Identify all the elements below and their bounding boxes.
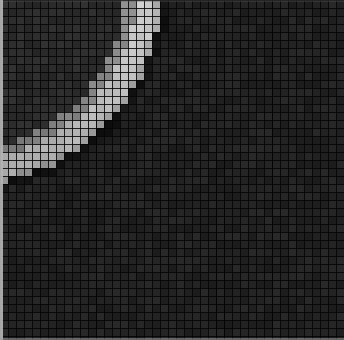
left-edge-strip [0, 0, 3, 340]
image-canvas-container: Pixelated grayscale limb arc Low-resolut… [0, 0, 344, 340]
top-edge-strip [0, 0, 344, 2]
pixelated-limb-image [0, 0, 344, 340]
